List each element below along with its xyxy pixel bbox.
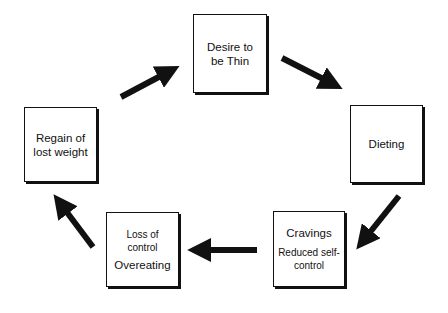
node-regain-of-lost-weight: Regain of lost weight bbox=[24, 107, 97, 182]
arrow-dieting-to-cravings bbox=[363, 196, 399, 241]
node-label-line: be Thin bbox=[211, 54, 249, 68]
node-desire-to-be-thin: Desire to be Thin bbox=[193, 14, 267, 93]
node-dieting: Dieting bbox=[350, 105, 423, 183]
arrow-loss-to-regain bbox=[60, 203, 93, 247]
node-subtitle: Overeating bbox=[114, 258, 170, 272]
node-title: Cravings bbox=[286, 226, 331, 240]
node-label-line: Regain of bbox=[36, 131, 85, 145]
node-title: Loss of control bbox=[111, 228, 174, 254]
node-subtitle: Reduced self-control bbox=[278, 246, 340, 272]
arrow-regain-to-desire bbox=[121, 71, 170, 97]
node-label-line: lost weight bbox=[33, 145, 87, 159]
arrow-desire-to-dieting bbox=[282, 58, 333, 84]
node-loss-of-control: Loss of control Overeating bbox=[106, 212, 179, 287]
node-cravings: Cravings Reduced self-control bbox=[273, 211, 345, 287]
node-label-line: Desire to bbox=[207, 40, 253, 54]
node-label-line: Dieting bbox=[369, 137, 405, 151]
